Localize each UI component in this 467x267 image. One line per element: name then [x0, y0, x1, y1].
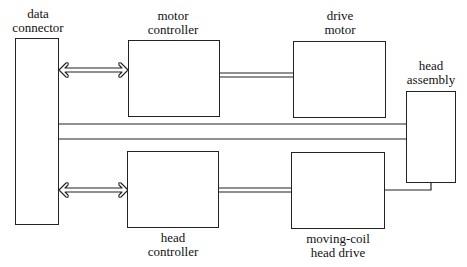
head-controller-block [127, 151, 219, 228]
data-connector-block [15, 38, 59, 225]
label-line: controller [133, 23, 213, 37]
data-connector-label: data connector [8, 7, 68, 35]
link-head-controller-to-moving-coil [218, 188, 291, 192]
label-line: drive [300, 9, 380, 23]
label-line: data [8, 7, 68, 21]
moving-coil-head-drive-label: moving-coil head drive [293, 232, 383, 260]
label-line: motor [133, 9, 213, 23]
label-line: controller [133, 245, 213, 259]
label-line: moving-coil [293, 232, 383, 246]
label-line: connector [8, 21, 68, 35]
head-assembly-block [406, 91, 456, 183]
motor-controller-label: motor controller [133, 9, 213, 37]
bidirectional-arrow-bottom [59, 183, 128, 198]
motor-controller-block [128, 40, 220, 117]
head-controller-label: head controller [133, 231, 213, 259]
link-moving-coil-to-head-assembly [384, 182, 431, 190]
connection-lines [0, 0, 467, 267]
label-line: head [395, 59, 467, 73]
drive-motor-label: drive motor [300, 9, 380, 37]
label-line: motor [300, 23, 380, 37]
moving-coil-head-drive-block [291, 152, 385, 229]
label-line: head [133, 231, 213, 245]
label-line: head drive [293, 246, 383, 260]
drive-motor-block [293, 41, 386, 118]
link-motor-controller-to-drive-motor [219, 73, 293, 77]
label-line: assembly [395, 73, 467, 87]
bidirectional-arrow-top [59, 63, 128, 78]
head-assembly-label: head assembly [395, 59, 467, 87]
bus-connector-to-head-assembly [58, 124, 406, 139]
